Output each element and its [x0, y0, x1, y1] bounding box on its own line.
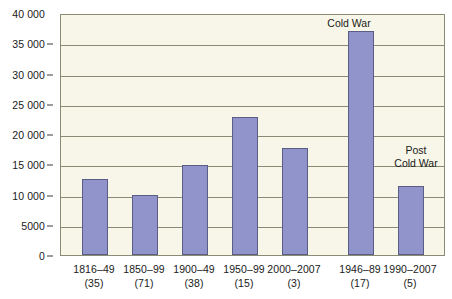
x-axis: 1816–49(35)1850–99(71)1900–49(38)1950–99…	[0, 260, 452, 299]
y-tick-label: 30 000	[12, 69, 45, 81]
y-tick-mark	[47, 225, 53, 226]
y-tick-label: 40 000	[12, 8, 45, 20]
x-tick-count: (3)	[264, 276, 324, 290]
y-tick-mark	[47, 165, 53, 166]
bar	[182, 165, 208, 255]
gridline	[61, 106, 444, 107]
y-tick-mark	[47, 74, 53, 75]
bar-chart-figure: 40 00035 00030 00025 00020 00015 00010 0…	[0, 0, 452, 299]
bar	[132, 195, 158, 256]
annotation-post-cold-war-line1: Post	[384, 144, 448, 157]
plot-area	[60, 14, 445, 256]
bar	[398, 186, 424, 255]
x-tick-label: 1990–2007(5)	[380, 262, 440, 290]
y-axis: 40 00035 00030 00025 00020 00015 00010 0…	[0, 14, 53, 256]
gridline	[61, 45, 444, 46]
bar	[232, 117, 258, 255]
bar	[282, 148, 308, 255]
y-tick-mark	[47, 135, 53, 136]
bar	[348, 31, 374, 255]
x-tick-period: 1990–2007	[380, 262, 440, 276]
y-tick-label: 15 000	[12, 159, 45, 171]
x-tick-label: 2000–2007(3)	[264, 262, 324, 290]
y-tick-label: 25 000	[12, 99, 45, 111]
annotation-post-cold-war: Post Cold War	[384, 144, 448, 170]
x-tick-count: (5)	[380, 276, 440, 290]
y-tick-mark	[47, 256, 53, 257]
y-tick-label: 20 000	[12, 129, 45, 141]
annotation-post-cold-war-line2: Cold War	[384, 157, 448, 170]
y-tick-label: 5000	[21, 220, 45, 232]
y-tick-label: 35 000	[12, 38, 45, 50]
y-tick-label: 10 000	[12, 190, 45, 202]
y-tick-mark	[47, 195, 53, 196]
bar	[82, 179, 108, 255]
annotation-cold-war-label: Cold War	[327, 17, 370, 29]
y-tick-mark	[47, 44, 53, 45]
gridline	[61, 76, 444, 77]
x-tick-period: 2000–2007	[264, 262, 324, 276]
y-tick-mark	[47, 104, 53, 105]
annotation-cold-war: Cold War	[313, 17, 385, 30]
clipped-header-text	[52, 0, 252, 5]
